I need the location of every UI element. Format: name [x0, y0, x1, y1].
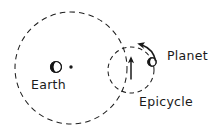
epicycle-diagram: Earth Planet Epicycle: [0, 0, 218, 136]
epicycle-label: Epicycle: [139, 96, 193, 109]
earth-body: [51, 62, 62, 73]
planet-label: Planet: [167, 50, 208, 63]
diagram-canvas: [0, 0, 218, 136]
deferent-motion-arrow: [128, 56, 134, 79]
deferent-center-point: [69, 65, 72, 68]
earth-label: Earth: [31, 79, 66, 92]
